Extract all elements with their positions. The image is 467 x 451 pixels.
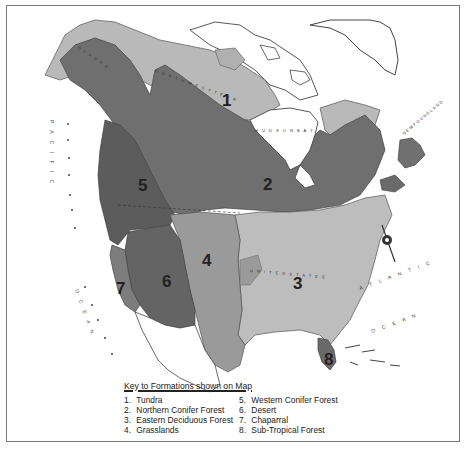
pacific-ocean-label: O C E A N [74,288,97,337]
legend-item: 5. Western Conifer Forest [239,395,338,405]
pacific-label: P A C I F I C [49,120,55,186]
legend-item: 2. Northern Conifer Forest [124,405,239,415]
region-label-8: 8 [324,350,333,369]
atlantic-ocean-label: O C E A N [370,311,419,334]
newfoundland [398,138,425,168]
region-label-4: 4 [202,251,212,270]
caribbean-islands [345,345,400,366]
legend-item: 7. Chaparral [239,415,338,425]
region-label-2: 2 [263,175,272,194]
hudson-bay-label: H U D S O N B A Y [255,128,314,133]
compass-rose-icon [382,225,395,262]
region-label-6: 6 [162,272,171,291]
newfoundland-label: NEWFOUNDLAND [401,98,444,135]
region-label-5: 5 [138,176,147,195]
legend-item: 6. Desert [239,405,338,415]
legend-item: 8. Sub-Tropical Forest [239,425,338,435]
map-legend: Key to Formations shown on Map 1. Tundra… [124,381,354,435]
legend-item: 4. Grasslands [124,425,239,435]
greenland-outline [310,20,398,75]
legend-title: Key to Formations shown on Map [124,381,354,391]
region-label-7: 7 [116,279,125,298]
legend-item: 3. Eastern Deciduous Forest [124,415,239,425]
legend-item: 1. Tundra [124,395,239,405]
